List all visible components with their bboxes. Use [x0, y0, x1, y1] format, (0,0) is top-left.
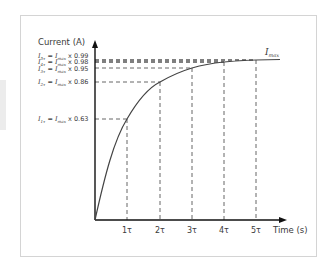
x-axis-label: Time (s)	[272, 225, 308, 235]
guide-lines	[95, 60, 256, 220]
x-ticks: 1τ 2τ 3τ 4τ 5τ	[122, 226, 261, 235]
x-axis-arrow-icon	[279, 217, 287, 223]
svg-text:3τ: 3τ	[187, 226, 197, 235]
svg-text:1τ: 1τ	[122, 226, 132, 235]
svg-text:I2τ = Imax x 0.86: I2τ = Imax x 0.86	[37, 78, 88, 87]
chart: Current (A) Time (s) 1τ 2τ 3τ 4τ 5τ Imax…	[0, 0, 328, 273]
y-axis-arrow-icon	[92, 40, 98, 48]
svg-text:I1τ = Imax x 0.63: I1τ = Imax x 0.63	[37, 115, 88, 124]
svg-text:2τ: 2τ	[155, 226, 165, 235]
imax-label: Imax	[264, 47, 279, 58]
svg-text:5τ: 5τ	[251, 226, 261, 235]
svg-text:4τ: 4τ	[219, 226, 229, 235]
y-annotations: I5τ = Imax x 0.99 I4τ = Imax x 0.98 I3τ …	[37, 52, 88, 124]
axes	[95, 44, 283, 220]
y-axis-label: Current (A)	[38, 37, 85, 47]
current-curve	[95, 60, 280, 221]
